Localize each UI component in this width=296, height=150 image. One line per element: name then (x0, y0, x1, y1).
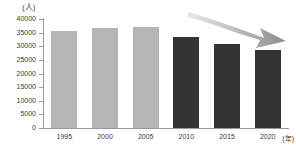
y-tick-label: 0 (0, 124, 36, 131)
y-tick-label: 35000 (0, 29, 36, 36)
y-tick-label: 5000 (0, 110, 36, 117)
y-tick-mark (39, 128, 44, 129)
x-tick-label-2000: 2000 (85, 133, 125, 140)
x-tick-label-2005: 2005 (126, 133, 166, 140)
x-tick-label-2015: 2015 (207, 133, 247, 140)
bar-2020 (255, 50, 281, 128)
bar-1995 (51, 31, 77, 128)
x-tick-label-2010: 2010 (166, 133, 206, 140)
bar-2015 (214, 44, 240, 129)
y-tick-label: 30000 (0, 42, 36, 49)
bar-chart: (人) 400003500030000250002000015000100005… (0, 0, 296, 150)
y-tick-label: 10000 (0, 97, 36, 104)
bar-2005 (133, 27, 159, 128)
y-tick-label: 20000 (0, 70, 36, 77)
y-tick-label: 25000 (0, 56, 36, 63)
bars-layer (44, 19, 288, 128)
y-axis-unit-label: (人) (22, 1, 35, 12)
x-axis-unit-label: (年) (282, 133, 294, 143)
x-axis-line (43, 128, 289, 129)
bar-2000 (92, 28, 118, 128)
bar-2010 (173, 37, 199, 128)
y-tick-label: 15000 (0, 83, 36, 90)
x-tick-label-1995: 1995 (44, 133, 84, 140)
y-tick-label: 40000 (0, 15, 36, 22)
